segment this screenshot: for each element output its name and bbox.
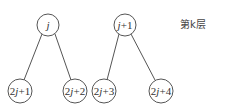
node-label: 2j+3 bbox=[94, 85, 115, 97]
edge-j-2j+2 bbox=[55, 34, 71, 80]
edge-j+1-2j+4 bbox=[131, 34, 155, 80]
node-label: 2j+4 bbox=[151, 85, 172, 97]
level-label: 第k层 bbox=[180, 18, 206, 30]
node-label: 2j+1 bbox=[10, 85, 30, 97]
edge-j-2j+1 bbox=[24, 34, 42, 80]
node-2j+3: 2j+3 bbox=[92, 79, 116, 103]
node-label: j+1 bbox=[116, 19, 133, 31]
node-2j+4: 2j+4 bbox=[149, 79, 173, 103]
node-j: j bbox=[37, 14, 59, 36]
tree-diagram: j j+1 2j+1 2j+2 2j+3 2j+4 第k层 bbox=[0, 0, 228, 112]
node-j+1: j+1 bbox=[114, 14, 136, 36]
node-2j+2: 2j+2 bbox=[63, 79, 87, 103]
node-label: 2j+2 bbox=[65, 85, 85, 97]
node-2j+1: 2j+1 bbox=[8, 79, 32, 103]
edge-j+1-2j+3 bbox=[107, 34, 119, 80]
